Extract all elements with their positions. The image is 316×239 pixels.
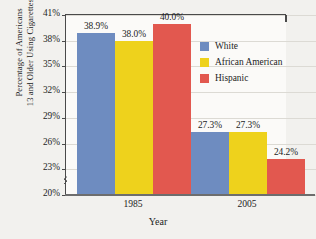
bar-african-american-1985 xyxy=(115,41,153,195)
y-tick-mark xyxy=(62,118,66,119)
bar-white-2005 xyxy=(191,132,229,195)
y-tick-mark xyxy=(62,15,66,16)
legend-item-white[interactable]: White xyxy=(200,38,282,54)
y-tick-label: 41% xyxy=(30,8,60,18)
y-tick-label: 26% xyxy=(30,137,60,147)
legend-label: African American xyxy=(215,57,282,67)
y-tick-label: 29% xyxy=(30,111,60,121)
legend-swatch-icon xyxy=(200,74,209,83)
bar-white-1985 xyxy=(77,33,115,195)
x-axis-title: Year xyxy=(0,216,316,227)
bar-value-label: 24.2% xyxy=(263,147,309,157)
bar-value-label: 38.0% xyxy=(111,29,157,39)
y-tick-mark xyxy=(62,92,66,93)
bar-value-label: 27.3% xyxy=(225,120,271,130)
legend-label: White xyxy=(215,41,238,51)
axis-break-icon xyxy=(63,176,70,185)
x-axis-baseline xyxy=(65,194,315,196)
bar-hispanic-2005 xyxy=(267,159,305,195)
bar-hispanic-1985 xyxy=(153,24,191,195)
legend-swatch-icon xyxy=(200,42,209,51)
legend-item-hispanic[interactable]: Hispanic xyxy=(200,70,282,86)
y-tick-label: 32% xyxy=(30,85,60,95)
bar-chart: Percentage of Americans 13 and Older Usi… xyxy=(0,0,316,239)
y-tick-mark xyxy=(62,66,66,67)
y-tick-label: 20% xyxy=(30,188,60,198)
x-tick-label-2005: 2005 xyxy=(180,198,314,209)
bar-african-american-2005 xyxy=(229,132,267,195)
legend-swatch-icon xyxy=(200,58,209,67)
y-axis-title-line-1: Percentage of Americans xyxy=(14,0,25,141)
y-tick-mark xyxy=(62,41,66,42)
y-tick-mark xyxy=(62,169,66,170)
y-tick-label: 23% xyxy=(30,162,60,172)
legend-item-african-american[interactable]: African American xyxy=(200,54,282,70)
bar-value-label: 40.0% xyxy=(149,12,195,22)
y-tick-label: 38% xyxy=(30,34,60,44)
y-tick-mark xyxy=(62,144,66,145)
y-tick-label: 35% xyxy=(30,59,60,69)
legend: WhiteAfrican AmericanHispanic xyxy=(200,38,282,86)
legend-label: Hispanic xyxy=(215,73,248,83)
